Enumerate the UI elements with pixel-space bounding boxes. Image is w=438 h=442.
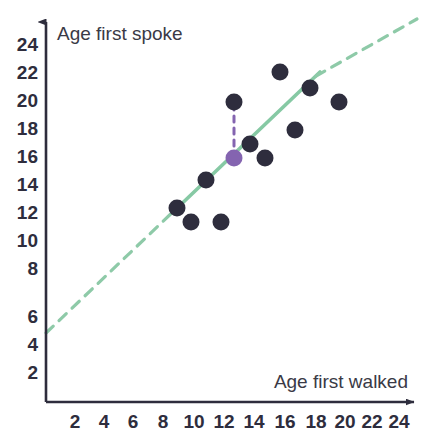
y-axis-title: Age first spoke (57, 23, 183, 44)
plot-area: 24 22 20 18 16 14 12 10 8 6 4 2 2 4 6 8 … (0, 0, 438, 442)
data-point (213, 214, 230, 231)
x-tick-label-24: 24 (388, 411, 410, 432)
data-point (257, 150, 274, 167)
data-point (302, 80, 319, 97)
data-point (198, 172, 215, 189)
data-point (183, 214, 200, 231)
data-point (272, 64, 289, 81)
x-tick-label-4: 4 (99, 411, 110, 432)
x-tick-label-20: 20 (334, 411, 355, 432)
y-tick-label-14: 14 (17, 174, 39, 195)
y-tick-label-12: 12 (17, 202, 38, 223)
y-tick-label-4: 4 (27, 334, 38, 355)
x-tick-label-12: 12 (213, 411, 234, 432)
x-tick-label-16: 16 (274, 411, 295, 432)
x-tick-label-22: 22 (361, 411, 382, 432)
y-tick-label-16: 16 (17, 146, 38, 167)
y-tick-label-8: 8 (27, 258, 38, 279)
x-tick-label-2: 2 (70, 411, 81, 432)
y-tick-label-2: 2 (27, 362, 38, 383)
scatter-plot-figure: 24 22 20 18 16 14 12 10 8 6 4 2 2 4 6 8 … (0, 0, 438, 442)
trend-line-dashed-upper (316, 19, 417, 76)
data-point (287, 122, 304, 139)
y-tick-label-10: 10 (17, 230, 38, 251)
x-tick-label-8: 8 (158, 411, 169, 432)
y-tick-label-6: 6 (27, 306, 38, 327)
x-tick-label-18: 18 (305, 411, 326, 432)
x-tick-label-10: 10 (183, 411, 204, 432)
data-point (226, 94, 243, 111)
data-point (242, 136, 259, 153)
x-tick-label-14: 14 (243, 411, 265, 432)
data-point (331, 94, 348, 111)
y-tick-label-18: 18 (17, 118, 38, 139)
y-tick-label-22: 22 (17, 62, 38, 83)
x-axis-title: Age first walked (274, 371, 408, 392)
x-tick-label-6: 6 (128, 411, 139, 432)
y-tick-label-24: 24 (17, 34, 39, 55)
predicted-value-point (226, 150, 243, 167)
y-tick-label-20: 20 (17, 90, 38, 111)
trend-line-dashed-lower (46, 208, 177, 333)
data-point (169, 200, 186, 217)
